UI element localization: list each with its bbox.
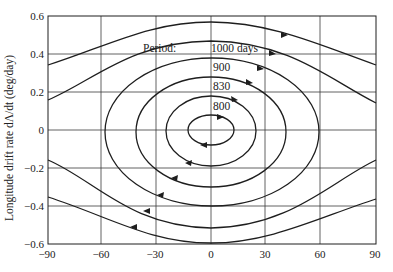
- period-label-800: 800: [213, 100, 231, 112]
- svg-text:−90: −90: [38, 248, 56, 260]
- arrow-icon: [217, 114, 224, 120]
- svg-text:0.6: 0.6: [30, 10, 44, 22]
- orbit-ellipse-900: [105, 58, 319, 206]
- svg-text:0.2: 0.2: [30, 86, 44, 98]
- svg-text:−0.4: −0.4: [24, 200, 44, 212]
- orbit-open-lower-inner: [48, 160, 376, 228]
- period-label-1000: 1000 days: [211, 42, 258, 55]
- svg-text:−0.2: −0.2: [24, 162, 44, 174]
- period-prefix: Period:: [143, 42, 176, 54]
- orbit-open-lower-outer: [48, 197, 376, 243]
- arrow-icon: [231, 96, 238, 102]
- x-axis-ticks: −90 −60 −30 0 30 60 90: [38, 248, 381, 260]
- phase-plot: Period: 1000 days 900 830 800 0.6 0.4 0.…: [0, 0, 393, 272]
- period-label-900: 900: [213, 61, 231, 73]
- svg-text:0.4: 0.4: [30, 48, 44, 60]
- svg-text:60: 60: [315, 248, 327, 260]
- y-axis-ticks: 0.6 0.4 0.2 0 −0.2 −0.4 −0.6: [24, 10, 44, 250]
- direction-arrows: [130, 32, 288, 230]
- svg-text:−30: −30: [146, 248, 164, 260]
- y-axis-label: Longitude drift rate dΛ/dt (deg/day): [3, 55, 16, 221]
- period-label-830: 830: [213, 80, 231, 92]
- svg-text:0: 0: [208, 248, 214, 260]
- svg-text:−60: −60: [92, 248, 110, 260]
- svg-text:0: 0: [39, 124, 45, 136]
- arrow-icon: [143, 208, 150, 214]
- svg-text:30: 30: [260, 248, 272, 260]
- svg-text:90: 90: [370, 248, 382, 260]
